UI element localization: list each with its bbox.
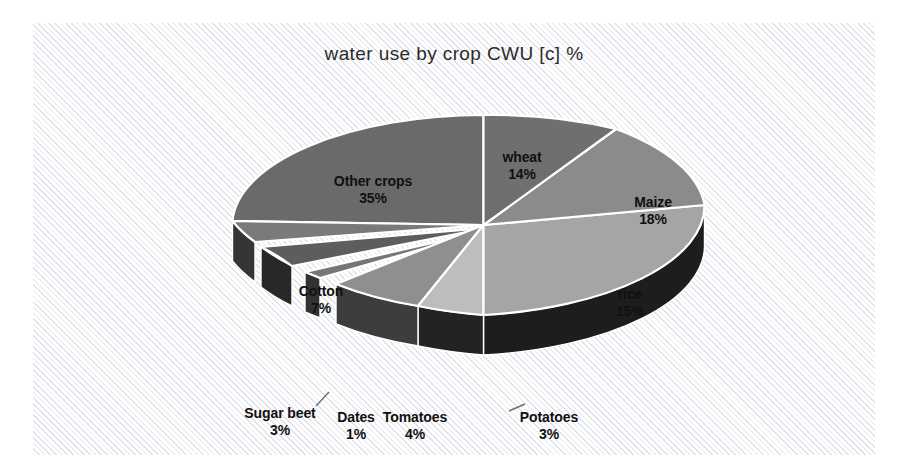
pie-label-wheat: wheat 14% bbox=[502, 149, 541, 183]
pie-label-potatoes-name: Potatoes bbox=[520, 409, 578, 426]
pie-label-tomatoes-percent: 4% bbox=[383, 426, 447, 443]
pie-label-wheat-percent: 14% bbox=[502, 166, 541, 183]
pie-label-maize-percent: 18% bbox=[634, 211, 672, 228]
pie-label-rice: rice 15% bbox=[616, 286, 644, 320]
pie-label-maize-name: Maize bbox=[634, 194, 672, 211]
pie-label-sugar-beet: Sugar beet 3% bbox=[244, 405, 315, 439]
pie-label-rice-percent: 15% bbox=[616, 303, 644, 320]
pie-label-tomatoes: Tomatoes 4% bbox=[383, 409, 447, 443]
pie-label-cotton-percent: 7% bbox=[299, 300, 344, 317]
pie-label-sugar-beet-percent: 3% bbox=[244, 422, 315, 439]
pie-label-potatoes: Potatoes 3% bbox=[520, 409, 578, 443]
pie-slice-other-crops bbox=[233, 115, 484, 225]
pie-label-tomatoes-name: Tomatoes bbox=[383, 409, 447, 426]
pie-label-other-crops: Other crops 35% bbox=[334, 173, 412, 207]
pie-label-rice-name: rice bbox=[616, 286, 644, 303]
pie-label-dates-name: Dates bbox=[337, 409, 375, 426]
pie-label-sugar-beet-name: Sugar beet bbox=[244, 405, 315, 422]
pie-label-dates: Dates 1% bbox=[337, 409, 375, 443]
chart-frame: water use by crop CWU [c] % bbox=[33, 23, 875, 455]
pie-label-potatoes-percent: 3% bbox=[520, 426, 578, 443]
pie-label-other-crops-name: Other crops bbox=[334, 173, 412, 190]
pie-svg bbox=[33, 23, 875, 455]
pie-label-cotton-name: Cotton bbox=[299, 283, 344, 300]
pie-label-maize: Maize 18% bbox=[634, 194, 672, 228]
pie-label-dates-percent: 1% bbox=[337, 426, 375, 443]
pie-chart: wheat 14% Maize 18% rice 15% Potatoes 3%… bbox=[33, 23, 875, 455]
pie-label-other-crops-percent: 35% bbox=[334, 190, 412, 207]
pie-label-cotton: Cotton 7% bbox=[299, 283, 344, 317]
pie-label-wheat-name: wheat bbox=[502, 149, 541, 166]
leader-line-sugar-beet bbox=[316, 392, 329, 406]
